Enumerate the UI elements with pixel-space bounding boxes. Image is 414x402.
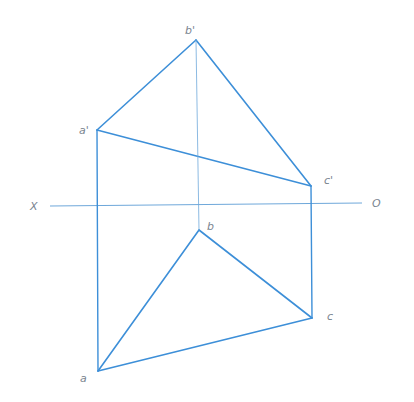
- label-c-prime: c': [324, 174, 333, 187]
- label-b-prime: b': [185, 24, 195, 37]
- projection-diagram: X O b' a' c' b c a: [0, 0, 414, 402]
- edge-a_prime-b_prime: [97, 40, 196, 130]
- axis-label-o: O: [372, 197, 381, 210]
- edge-b_prime-c_prime: [196, 40, 311, 186]
- axis-label-x: X: [29, 200, 38, 213]
- label-c: c: [327, 310, 333, 323]
- edge-b-c: [199, 230, 312, 318]
- label-a-prime: a': [79, 124, 89, 137]
- edge-c_prime-c: [311, 186, 312, 318]
- label-a: a: [80, 372, 87, 385]
- label-b: b: [207, 220, 214, 233]
- edge-a_prime-a: [97, 130, 98, 371]
- edge-a_prime-c_prime: [97, 130, 311, 186]
- edge-b_prime-b: [196, 40, 199, 230]
